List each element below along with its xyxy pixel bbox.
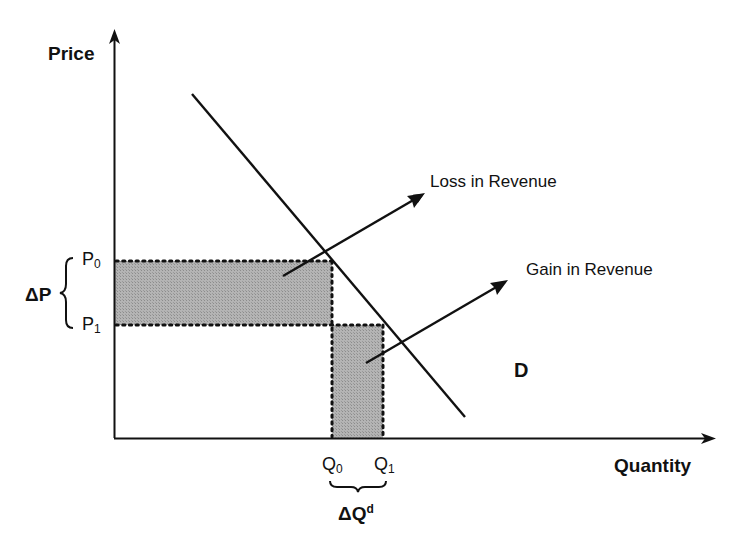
tick-q0: Q0 [322,455,343,475]
tick-p0: P0 [82,250,101,270]
demand-label: D [514,360,528,380]
delta-p-brace-icon [60,258,73,328]
delta-p-label: ΔP [25,285,51,304]
delta-q-label: ΔQd [338,503,374,523]
delta-q-brace-icon [330,481,386,492]
loss-arrow [283,195,422,276]
gain-arrowhead-icon [490,280,508,295]
axes [114,40,705,439]
loss-arrowhead-icon [407,193,425,208]
loss-region [115,261,332,325]
gain-arrow [366,282,505,363]
tick-p1: P1 [82,315,101,335]
demand-curve [192,94,465,417]
gain-region [332,325,383,438]
x-axis-label: Quantity [614,456,691,475]
gain-in-revenue-label: Gain in Revenue [526,261,653,278]
loss-in-revenue-label: Loss in Revenue [430,173,557,190]
tick-q1: Q1 [374,455,395,475]
y-axis-label: Price [48,44,94,63]
